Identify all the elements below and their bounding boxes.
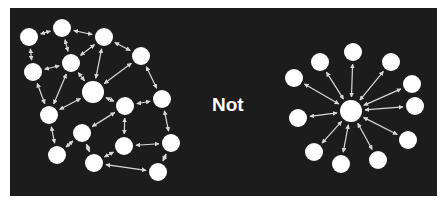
spoke-edge-arrow (365, 107, 403, 110)
mesh-node (82, 81, 104, 103)
mesh-edge-arrow (65, 40, 68, 52)
mesh-node (116, 97, 134, 115)
mesh-edge-arrow (136, 144, 159, 145)
spoke-node (332, 155, 350, 173)
spoke-edge-arrow (363, 117, 397, 134)
mesh-edge-arrow (80, 44, 94, 55)
mesh-edge-arrow (106, 165, 146, 171)
mesh-node (132, 47, 150, 65)
mesh-edge-arrow (60, 98, 81, 109)
spoke-node (289, 109, 307, 127)
mesh-edge-arrow (74, 31, 93, 35)
mesh-edge-arrow (37, 83, 45, 104)
hub-nodes (285, 43, 424, 173)
mesh-edge-arrow (41, 31, 51, 34)
spoke-node (403, 75, 421, 93)
mesh-node (73, 124, 91, 142)
spoke-node (285, 69, 303, 87)
spoke-node (406, 97, 424, 115)
spoke-edge-arrow (360, 71, 384, 100)
spoke-node (311, 53, 329, 71)
mesh-node (149, 163, 167, 181)
mesh-edge-arrow (86, 144, 89, 152)
mesh-node (40, 106, 58, 124)
hub-node (340, 100, 362, 122)
mesh-node (153, 90, 171, 108)
mesh-edge-arrow (163, 154, 166, 161)
mesh-edge-arrow (96, 49, 102, 79)
mesh-edge-arrow (92, 112, 115, 126)
mesh-edge-arrow (51, 127, 54, 143)
spoke-node (305, 143, 323, 161)
mesh-node (53, 19, 71, 37)
mesh-edge-arrow (104, 152, 113, 157)
mesh-edge-arrow (78, 73, 84, 81)
spoke-node (369, 151, 387, 169)
spoke-edge-arrow (358, 123, 372, 149)
mesh-node (115, 137, 133, 155)
mesh-node (62, 54, 80, 72)
mesh-node (95, 28, 113, 46)
mesh-edge-arrow (104, 63, 131, 83)
mesh-node (85, 154, 103, 172)
spoke-edge-arrow (304, 84, 338, 104)
spoke-node (382, 53, 400, 71)
mesh-edge-arrow (146, 67, 156, 88)
mesh-edge-arrow (137, 101, 150, 104)
mesh-edge-arrow (115, 42, 131, 50)
mesh-node (48, 146, 66, 164)
spoke-edge-arrow (310, 113, 337, 117)
spoke-edge-arrow (364, 89, 401, 105)
spoke-node (344, 43, 362, 61)
mesh-edge-arrow (164, 111, 168, 131)
spoke-node (399, 131, 417, 149)
mesh-node (20, 28, 38, 46)
mesh-edge-arrow (30, 49, 31, 60)
spoke-edge-arrow (343, 125, 348, 152)
mesh-node (24, 63, 42, 81)
mesh-edge-arrow (106, 98, 114, 102)
mesh-node (162, 134, 180, 152)
spoke-edge-arrow (351, 64, 352, 97)
spoke-edge-arrow (326, 72, 343, 99)
mesh-edge-arrow (66, 141, 73, 147)
mesh-edge-arrow (45, 66, 60, 69)
not-label: Not (212, 94, 244, 116)
spoke-edge-arrow (322, 121, 342, 143)
mesh-edge-arrow (54, 74, 67, 104)
